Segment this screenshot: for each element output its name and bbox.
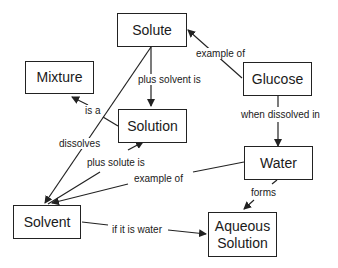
- node-solute: Solute: [117, 13, 187, 47]
- node-water: Water: [244, 146, 313, 180]
- link-label-example-of-glucose: example of: [195, 48, 246, 59]
- node-solution: Solution: [118, 109, 187, 143]
- link-label-dissolves: dissolves: [58, 138, 101, 149]
- link-label-plus-solvent-is: plus solvent is: [137, 74, 202, 85]
- concept-map: Solute Mixture Glucose Solution Water So…: [0, 0, 338, 268]
- link-label-example-of-water: example of: [133, 173, 184, 184]
- link-label-plus-solute-is: plus solute is: [86, 157, 146, 168]
- node-aqueous-solution: Aqueous Solution: [208, 212, 277, 257]
- link-label-forms: forms: [250, 187, 277, 198]
- node-mixture: Mixture: [25, 61, 94, 94]
- node-solvent: Solvent: [13, 205, 81, 239]
- link-label-is-a: is a: [84, 105, 102, 116]
- link-label-if-it-is-water: if it is water: [111, 224, 163, 235]
- node-glucose: Glucose: [243, 62, 312, 96]
- link-label-when-dissolved-in: when dissolved in: [240, 109, 321, 120]
